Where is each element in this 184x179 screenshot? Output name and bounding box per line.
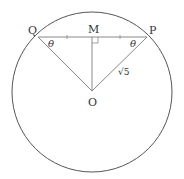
segment-PO: [92, 37, 147, 91]
angle-label-Q: θ: [48, 38, 54, 49]
geometry-diagram: Q M P O θ θ √5: [0, 0, 184, 179]
segment-QO: [38, 37, 92, 91]
label-M: M: [88, 23, 99, 36]
label-P: P: [149, 24, 157, 37]
label-Q: Q: [28, 24, 37, 37]
label-O: O: [88, 96, 97, 109]
right-angle-marker: [92, 37, 98, 43]
length-label-OP: √5: [118, 67, 130, 77]
angle-label-P: θ: [130, 38, 136, 49]
